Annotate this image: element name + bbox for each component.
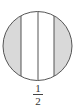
fraction-denominator: 2 [31, 96, 45, 106]
shaded-right-segment [54, 0, 82, 112]
fraction-numerator: 1 [31, 83, 45, 93]
fraction-label: 1 2 [31, 83, 45, 106]
shaded-left-segment [0, 0, 21, 112]
